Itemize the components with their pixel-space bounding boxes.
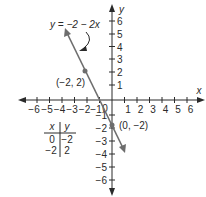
y-tick-label: 1	[117, 80, 123, 91]
table-cell: 0	[49, 134, 55, 145]
x-tick-label: 5	[175, 104, 181, 115]
callout-arrow-icon	[79, 46, 87, 51]
value-table: x y 0 −2 −2 2	[44, 121, 76, 157]
y-tick-label: 5	[117, 29, 123, 40]
y-tick-label: 4	[117, 42, 123, 53]
y-tick-label: −4	[96, 149, 108, 160]
y-axis-label: y	[118, 4, 125, 15]
x-tick-label: −5	[41, 104, 53, 115]
x-tick-label: −6	[28, 104, 40, 115]
y-tick-label: 6	[117, 16, 123, 27]
y-tick-label: 3	[117, 54, 123, 65]
equation-label: y = −2 − 2x	[49, 19, 101, 30]
y-tick-label: −3	[96, 136, 108, 147]
coordinate-graph: −6 −5 −4 −3 −2 −1 1 2 3 4 5 6 x	[0, 0, 206, 197]
y-tick-label: −6	[96, 175, 108, 186]
x-axis-right-arrow-icon	[197, 97, 205, 103]
point-neg2-2	[83, 69, 88, 74]
x-tick-label: 1	[125, 104, 131, 115]
table-cell: −2	[45, 145, 57, 156]
y-tick-label: 2	[117, 67, 123, 78]
y-tick-label: −2	[96, 123, 108, 134]
x-tick-label: −4	[54, 104, 66, 115]
y-axis-down-arrow-icon	[109, 188, 115, 196]
x-axis-label: x	[196, 85, 203, 96]
equation-text: y = −2 − 2x	[49, 19, 101, 30]
table-header-y: y	[64, 121, 71, 132]
point-0-neg2	[110, 123, 115, 128]
point-label: (−2, 2)	[56, 77, 85, 88]
point-label: (0, −2)	[119, 120, 148, 131]
x-tick-label: 4	[163, 104, 169, 115]
x-tick-label: 2	[138, 104, 144, 115]
table-cell: −2	[61, 134, 73, 145]
x-tick-label: 3	[150, 104, 156, 115]
table-cell: 2	[64, 145, 70, 156]
x-tick-label: −3	[66, 104, 78, 115]
x-axis-left-arrow-icon	[18, 97, 26, 103]
y-axis-up-arrow-icon	[109, 4, 115, 12]
x-tick-label: −2	[79, 104, 91, 115]
x-tick-label: 6	[188, 104, 194, 115]
table-header-x: x	[49, 121, 56, 132]
y-tick-label: −5	[96, 162, 108, 173]
callout-curve	[84, 32, 90, 48]
